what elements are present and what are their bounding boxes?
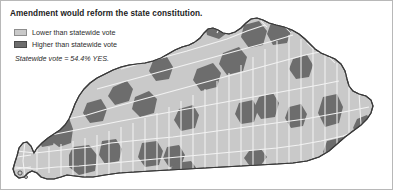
legend-swatch-higher-icon [14,41,27,48]
legend-item-lower: Lower than statewide vote [14,27,117,37]
legend-label-higher: Higher than statewide vote [32,40,117,49]
legend-label-lower: Lower than statewide vote [32,28,116,37]
legend-item-higher: Higher than statewide vote [14,39,117,49]
figure-container: Amendment would reform the state constit… [0,0,393,190]
map-legend: Lower than statewide vote Higher than st… [14,27,117,51]
legend-swatch-lower-icon [14,29,27,36]
statewide-vote-note: Statewide vote = 54.4% YES. [15,54,109,63]
